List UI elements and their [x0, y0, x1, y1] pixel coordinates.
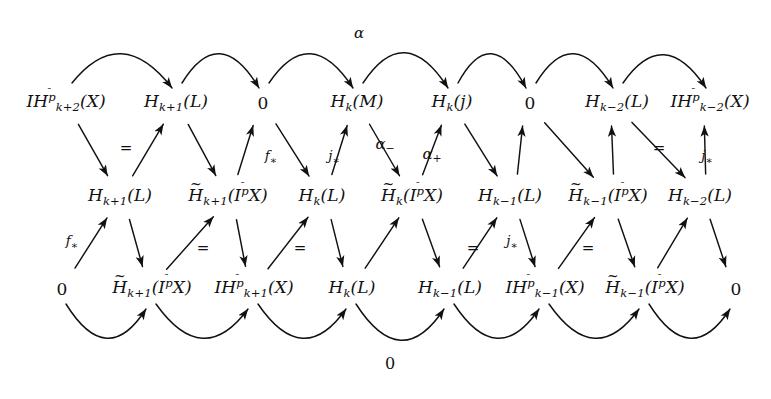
top-arc-3: [269, 54, 353, 88]
arrow-label-al-eq-5: =: [467, 241, 480, 256]
diag-down-m1-b2: [129, 220, 142, 267]
arrow-label-al-alpha-minus: α−: [375, 137, 394, 155]
diag-down-m7-b8: [710, 219, 726, 266]
diag-up-b1-m1: [75, 218, 107, 268]
node-mid-m4: H~k(Ip̄X): [381, 186, 443, 207]
arrow-label-al-eq-3: =: [197, 241, 210, 256]
bottom-arc-2: [156, 304, 248, 338]
node-top-t8: IHp̄k−2(X): [670, 92, 749, 113]
diag-down-m3-b4: [331, 220, 343, 267]
diag-down-m5-b6: [520, 219, 535, 266]
diag-down-t1-m1: [78, 124, 107, 175]
top-arc-6: [536, 54, 613, 88]
arrow-label-al-fstar-1: f∗: [265, 149, 277, 166]
bottom-arc-3: [258, 304, 346, 338]
diag-down-t6-m6: [545, 123, 594, 178]
node-mid-m7: Hk−2(L): [668, 187, 732, 207]
arrow-label-al-fstar-2: f∗: [66, 234, 78, 251]
arrow-label-al-jstar-2: j∗: [701, 149, 713, 166]
node-bot-b3: IHp̄k+1(X): [214, 278, 293, 299]
node-bot-b4: Hk(L): [329, 279, 376, 299]
arrow-label-al-eq-2: =: [653, 141, 666, 156]
bottom-arc-4: [356, 304, 444, 340]
top-arc-4: [363, 53, 448, 88]
node-bot-b7: H~k−1(Ip̄X): [605, 278, 684, 299]
diag-down-m6-b7: [618, 219, 634, 266]
node-top-t6: 0: [525, 95, 536, 112]
node-bot-b2: H~k+1(Ip̄X): [112, 278, 191, 299]
bottom-arc-5: [454, 304, 539, 338]
arrow-label-al-alpha-plus: α+: [422, 147, 441, 165]
bottom-arc-7: [649, 304, 730, 338]
node-top-t4: Hk(M): [330, 93, 383, 113]
arrow-label-al-jstar-1: j∗: [328, 149, 340, 166]
node-bot-b8: 0: [731, 281, 742, 298]
diag-up-m2-t3: [238, 125, 253, 174]
top-arc-7: [623, 55, 706, 88]
node-top-t1: IHp̄k+2(X): [26, 92, 105, 113]
arrow-label-al-eq-4: =: [294, 241, 307, 256]
node-top-t3: 0: [258, 95, 269, 112]
bottom-arc-6: [549, 304, 639, 338]
node-mid-m6: H~k−1(Ip̄X): [568, 186, 647, 207]
node-mid-m5: Hk−1(L): [478, 187, 542, 207]
diag-down-m2-b3: [236, 220, 245, 266]
node-top-t5: Hk(j): [432, 93, 473, 113]
node-bot-b6: IHp̄k−1(X): [505, 278, 584, 299]
node-mid-m3: Hk(L): [299, 187, 346, 207]
node-mid-m2: H~k+1(Ip̄X): [188, 186, 267, 207]
diag-down-t3-m3: [276, 124, 309, 176]
diag-down-t5-m5: [465, 124, 497, 176]
node-mid-m1: Hk+1(L): [88, 187, 152, 207]
top-arc-2: [182, 54, 259, 88]
arrow-label-al-eq-1: =: [120, 141, 133, 156]
node-top-t7: Hk−2(L): [585, 93, 649, 113]
arrow-label-al-zero-bot: 0: [385, 356, 395, 372]
arrow-label-al-eq-6: =: [582, 241, 595, 256]
diagram-canvas: IHp̄k+2(X)Hk+1(L)0Hk(M)Hk(j)0Hk−2(L)IHp̄…: [0, 0, 771, 399]
diag-up-m6-t7: [612, 126, 614, 174]
diag-up-b7-m7: [658, 218, 688, 268]
top-arc-1: [72, 54, 172, 88]
diag-up-b4-m4: [365, 218, 399, 268]
arrow-label-al-alpha: α: [354, 26, 364, 41]
node-top-t2: Hk+1(L): [144, 93, 208, 113]
bottom-arc-1: [66, 304, 146, 338]
diag-up-m1-t2: [133, 124, 164, 176]
arrow-label-al-jstar-3: j∗: [506, 234, 518, 251]
node-bot-b1: 0: [57, 281, 68, 298]
diag-down-t2-m2: [188, 124, 216, 175]
diag-down-m4-b5: [422, 219, 439, 267]
top-arc-5: [458, 54, 526, 88]
diag-up-m5-t6: [517, 126, 522, 174]
node-bot-b5: Hk−1(L): [418, 279, 482, 299]
